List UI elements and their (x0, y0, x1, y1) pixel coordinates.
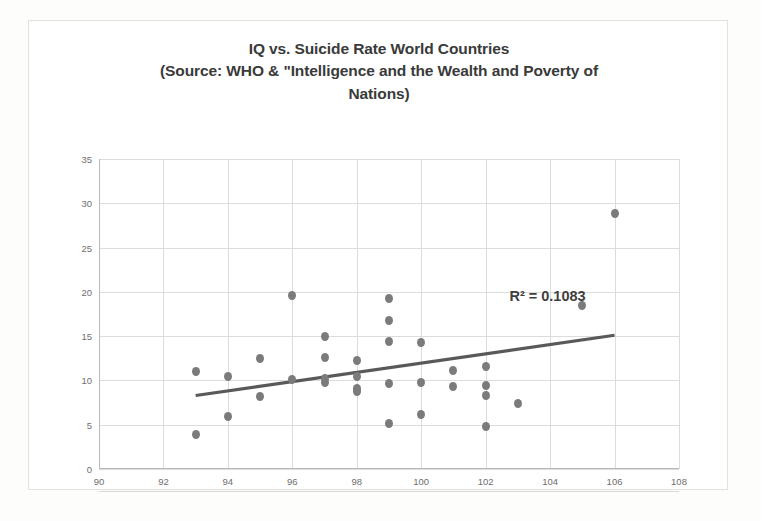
scatter-point (385, 337, 393, 346)
scatter-point (288, 291, 296, 300)
x-axis-tick-label: 98 (351, 476, 362, 487)
gridline-vertical (421, 159, 422, 469)
scatter-point (449, 366, 457, 375)
y-axis-tick-label: 35 (81, 154, 92, 165)
scatter-point (482, 381, 490, 390)
y-axis-tick-label: 30 (81, 198, 92, 209)
scatter-point (611, 209, 619, 218)
gridline-vertical (163, 159, 164, 469)
scatter-point (385, 419, 393, 428)
scatter-point (385, 294, 393, 303)
gridline-vertical (292, 159, 293, 469)
gridline-horizontal (99, 292, 679, 293)
x-axis-tick-label: 94 (223, 476, 234, 487)
scatter-point (256, 354, 264, 363)
scatter-point (353, 372, 361, 381)
scatter-point (482, 391, 490, 400)
scatter-point (353, 356, 361, 365)
x-axis-tick-label: 108 (671, 476, 687, 487)
x-axis-tick-label: 104 (542, 476, 558, 487)
gridline-horizontal (99, 203, 679, 204)
y-axis-line (99, 159, 100, 469)
x-axis-tick-label: 92 (158, 476, 169, 487)
scatter-point (192, 430, 200, 439)
scatter-point (514, 399, 522, 408)
x-axis-tick-label: 102 (478, 476, 494, 487)
y-axis-tick-label: 5 (87, 419, 92, 430)
y-axis-tick-label: 20 (81, 286, 92, 297)
gridline-vertical (615, 159, 616, 469)
chart-title-line-3: Nations) (89, 83, 669, 105)
scatter-point (417, 338, 425, 347)
scatter-point (224, 412, 232, 421)
x-axis-tick-label: 106 (607, 476, 623, 487)
scatter-point (482, 362, 490, 371)
scatter-point (321, 332, 329, 341)
scatter-point (417, 410, 425, 419)
scatter-point (482, 422, 490, 431)
scatter-point (192, 367, 200, 376)
x-axis-outer-rule (99, 491, 679, 492)
y-axis-tick-label: 15 (81, 331, 92, 342)
gridline-vertical (550, 159, 551, 469)
r-squared-annotation: R² = 0.1083 (509, 288, 585, 304)
scatter-point (288, 375, 296, 384)
plot-area: 05101520253035 9092949698100102104106108… (99, 159, 679, 469)
chart-title-line-1: IQ vs. Suicide Rate World Countries (89, 38, 669, 60)
scatter-point (385, 316, 393, 325)
gridline-vertical (679, 159, 680, 469)
x-axis-line (99, 468, 679, 469)
scanned-page: IQ vs. Suicide Rate World Countries (Sou… (0, 0, 761, 521)
scatter-point (321, 353, 329, 362)
scatter-point (353, 387, 361, 396)
chart-title-line-2: (Source: WHO & "Intelligence and the Wea… (89, 60, 669, 82)
gridline-horizontal (99, 159, 679, 160)
scatter-point (321, 378, 329, 387)
scatter-point (417, 378, 425, 387)
chart-title: IQ vs. Suicide Rate World Countries (Sou… (89, 38, 669, 105)
x-axis-tick-label: 100 (413, 476, 429, 487)
scatter-point (449, 382, 457, 391)
gridline-horizontal (99, 469, 679, 470)
y-axis-tick-label: 10 (81, 375, 92, 386)
gridline-vertical (357, 159, 358, 469)
y-axis-tick-label: 25 (81, 242, 92, 253)
chart-frame: IQ vs. Suicide Rate World Countries (Sou… (28, 20, 728, 490)
gridline-horizontal (99, 248, 679, 249)
x-axis-tick-label: 96 (287, 476, 298, 487)
y-axis-tick-label: 0 (87, 464, 92, 475)
gridline-vertical (228, 159, 229, 469)
scatter-point (385, 379, 393, 388)
scatter-point (256, 392, 264, 401)
x-axis-tick-label: 90 (94, 476, 105, 487)
